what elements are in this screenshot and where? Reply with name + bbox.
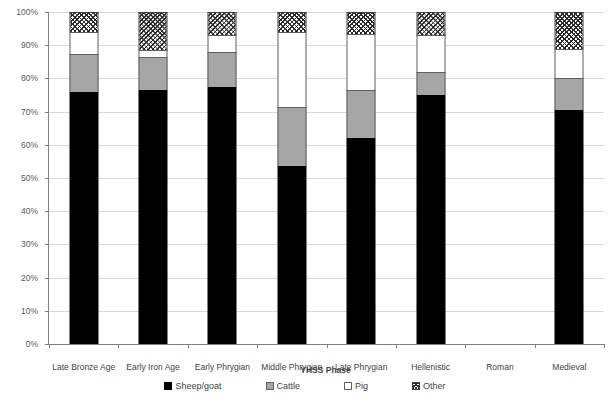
- bar-segment-sheepgoat[interactable]: [555, 110, 584, 344]
- stacked-bar[interactable]: [208, 12, 237, 344]
- bar-segment-cattle[interactable]: [347, 90, 376, 138]
- bar-group: [188, 12, 257, 344]
- bar-group: [327, 12, 396, 344]
- bar-segment-cattle[interactable]: [277, 107, 306, 167]
- stacked-bar[interactable]: [139, 12, 168, 344]
- stacked-bar[interactable]: [69, 12, 98, 344]
- bar-group: [49, 12, 118, 344]
- x-axis-tick-mark: [118, 344, 119, 348]
- bar-segment-cattle[interactable]: [416, 72, 445, 95]
- bar-group: [396, 12, 465, 344]
- bar-segment-sheepgoat[interactable]: [69, 92, 98, 344]
- y-axis-tick-label: 0%: [0, 339, 38, 349]
- legend-entry[interactable]: Other: [412, 381, 446, 391]
- x-axis-tick-mark: [535, 344, 536, 348]
- bar-segment-cattle[interactable]: [555, 78, 584, 110]
- legend-label: Cattle: [277, 381, 301, 391]
- y-axis-tick-label: 60%: [0, 140, 38, 150]
- bar-segment-other[interactable]: [208, 12, 237, 35]
- legend-entry[interactable]: Sheep/goat: [164, 381, 221, 391]
- y-axis-tick-label: 100%: [0, 7, 38, 17]
- x-axis-tick-mark: [188, 344, 189, 348]
- gray-square-icon: [266, 382, 274, 390]
- bar-segment-other[interactable]: [347, 12, 376, 34]
- bar-segment-other[interactable]: [69, 12, 98, 32]
- x-axis-tick-mark: [327, 344, 328, 348]
- bar-segment-sheepgoat[interactable]: [347, 138, 376, 344]
- bar-segment-other[interactable]: [277, 12, 306, 32]
- x-axis-tick-mark: [396, 344, 397, 348]
- stacked-bar-chart: Proportion of total NISP by taxon 100%90…: [0, 0, 610, 404]
- white-square-icon: [344, 382, 352, 390]
- bar-segment-sheepgoat[interactable]: [277, 166, 306, 344]
- bar-segment-pig[interactable]: [139, 50, 168, 57]
- bar-segment-cattle[interactable]: [139, 57, 168, 90]
- x-axis-tick-mark: [465, 344, 466, 348]
- legend-entry[interactable]: Pig: [344, 381, 368, 391]
- x-axis-tick-mark: [604, 344, 605, 348]
- legend-label: Sheep/goat: [175, 381, 221, 391]
- bar-group: [118, 12, 187, 344]
- y-axis-tick-label: 10%: [0, 306, 38, 316]
- bar-segment-pig[interactable]: [208, 35, 237, 52]
- bar-segment-pig[interactable]: [347, 34, 376, 90]
- y-axis-tick-label: 80%: [0, 73, 38, 83]
- stacked-bar[interactable]: [555, 12, 584, 344]
- y-axis-tick-label: 70%: [0, 107, 38, 117]
- hatched-square-icon: [412, 382, 420, 390]
- stacked-bar[interactable]: [416, 12, 445, 344]
- bar-group: [535, 12, 604, 344]
- bar-segment-cattle[interactable]: [208, 52, 237, 87]
- bar-group: [257, 12, 326, 344]
- bar-segment-pig[interactable]: [69, 32, 98, 54]
- stacked-bar[interactable]: [277, 12, 306, 344]
- plot-area: 100%90%80%70%60%50%40%30%20%10%0%Late Br…: [48, 12, 604, 345]
- chart-legend: Sheep/goatCattlePigOther: [0, 381, 610, 391]
- legend-entry[interactable]: Cattle: [266, 381, 301, 391]
- y-axis-tick-label: 20%: [0, 273, 38, 283]
- black-square-icon: [164, 382, 172, 390]
- bar-segment-sheepgoat[interactable]: [416, 95, 445, 344]
- x-axis-tick-mark: [257, 344, 258, 348]
- y-axis-tick-label: 90%: [0, 40, 38, 50]
- bar-segment-sheepgoat[interactable]: [208, 87, 237, 344]
- bar-segment-pig[interactable]: [277, 32, 306, 107]
- bar-segment-cattle[interactable]: [69, 54, 98, 92]
- bar-group: [465, 12, 534, 344]
- bar-segment-other[interactable]: [555, 12, 584, 49]
- bar-segment-other[interactable]: [416, 12, 445, 35]
- stacked-bar[interactable]: [347, 12, 376, 344]
- legend-label: Pig: [355, 381, 368, 391]
- bar-segment-other[interactable]: [139, 12, 168, 50]
- bar-segment-pig[interactable]: [416, 35, 445, 72]
- y-axis-tick-label: 50%: [0, 173, 38, 183]
- x-axis-title: YHSS Phase: [48, 365, 603, 375]
- bar-segment-sheepgoat[interactable]: [139, 90, 168, 344]
- y-axis-tick-label: 30%: [0, 239, 38, 249]
- bar-segment-pig[interactable]: [555, 49, 584, 79]
- legend-label: Other: [423, 381, 446, 391]
- x-axis-tick-mark: [49, 344, 50, 348]
- y-axis-tick-label: 40%: [0, 206, 38, 216]
